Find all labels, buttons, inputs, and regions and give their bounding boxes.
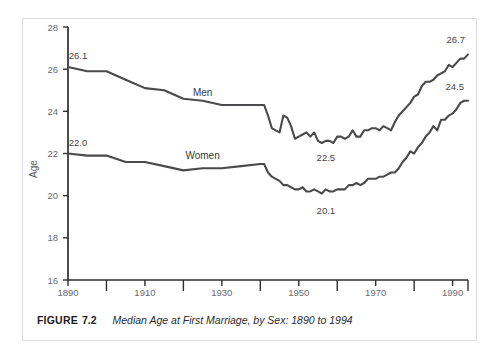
x-tick-label: 1970	[365, 287, 386, 298]
x-tick-label: 1950	[288, 287, 309, 298]
y-tick-label: 20	[47, 190, 58, 201]
y-tick-label: 16	[47, 275, 58, 286]
chart-plot: 16182022242628 1890190019101920193019401…	[23, 19, 476, 301]
y-tick-group: 16182022242628	[47, 22, 68, 286]
caption-text: Median Age at First Marriage, by Sex: 18…	[112, 314, 352, 326]
y-tick-label: 26	[47, 64, 58, 75]
x-tick-label: 1890	[57, 287, 78, 298]
y-axis-title: Age	[28, 160, 39, 178]
figure-container: 16182022242628 1890190019101920193019401…	[22, 18, 477, 341]
x-tick-label: 1910	[134, 287, 155, 298]
x-tick-label: 1990	[442, 287, 463, 298]
y-tick-label: 28	[47, 22, 58, 33]
caption-number: 7.2	[82, 314, 97, 326]
data-annotation: 20.1	[317, 205, 336, 216]
data-annotation: 26.1	[69, 50, 88, 61]
data-annotation: 26.7	[447, 34, 466, 45]
y-tick-label: 22	[47, 148, 58, 159]
data-annotation: 22.5	[317, 152, 336, 163]
data-annotation: 24.5	[446, 81, 465, 92]
series-label-men: Men	[193, 87, 212, 98]
y-tick-label: 24	[47, 106, 58, 117]
figure-caption: FIGURE 7.2 Median Age at First Marriage,…	[23, 300, 476, 340]
caption-label: FIGURE	[37, 314, 78, 326]
x-tick-group: 1890190019101920193019401950196019701980…	[57, 280, 476, 301]
series-label-women: Women	[185, 150, 219, 161]
y-tick-label: 18	[47, 232, 58, 243]
data-annotation: 22.0	[69, 137, 88, 148]
x-tick-label: 1930	[211, 287, 232, 298]
